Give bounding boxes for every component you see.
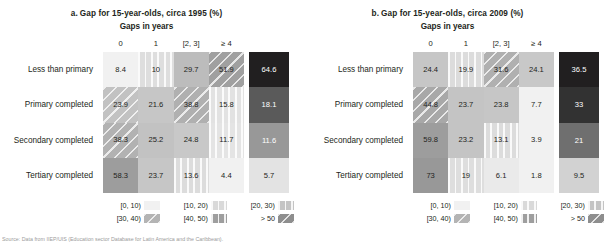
legend-swatch-40-50 — [521, 214, 537, 223]
legend-swatch-30-40 — [454, 214, 470, 223]
row-label-secondary-completed: Secondary completed — [324, 123, 403, 158]
row-label-secondary-completed: Secondary completed — [14, 123, 93, 158]
legend-swatch-10-20 — [211, 201, 227, 210]
legend-swatch-gt-50 — [278, 214, 294, 223]
legend-item-40-50: [40, 50) — [476, 213, 537, 224]
total-b-r3: 9.5 — [559, 158, 599, 193]
legend-item-gt-50: > 50 — [543, 213, 604, 224]
row-label-less-than-primary: Less than primary — [28, 52, 93, 87]
total-a-r2: 11.6 — [249, 123, 289, 158]
col-header-1: 1 — [138, 37, 173, 50]
panel-b-axis-title: Gaps in years — [301, 22, 594, 31]
legend-row-1: [0, 10) [10, 20) [20, 30) — [103, 200, 289, 211]
legend-item-gt-50: > 50 — [233, 213, 294, 224]
cell-b-r2-c3: 3.9 — [519, 123, 554, 158]
cell-b-r0-c0: 24.4 — [413, 52, 448, 87]
col-header-0: 0 — [413, 37, 448, 50]
col-header-2-3: [2, 3] — [484, 37, 519, 50]
row-label-tertiary-completed: Tertiary completed — [336, 158, 403, 193]
cell-a-r0-c1: 10 — [138, 52, 173, 87]
panel-a-letter: a. — [71, 9, 78, 18]
cell-a-r1-c3: 15.8 — [209, 87, 244, 122]
cell-b-r1-c0: 44.8 — [413, 87, 448, 122]
panel-b-row-labels: Less than primary Primary completed Seco… — [301, 52, 408, 193]
total-a-r1: 18.1 — [249, 87, 289, 122]
legend-item-10-20: [10, 20) — [476, 200, 537, 211]
legend-item-20-30: [20, 30) — [233, 200, 294, 211]
panel-a-totals-column: 64.6 18.1 11.6 5.7 — [249, 52, 289, 193]
col-header-2-3: [2, 3] — [174, 37, 209, 50]
legend-swatch-10-20 — [521, 201, 537, 210]
cell-b-r0-c2: 31.6 — [484, 52, 519, 87]
total-b-r0: 36.5 — [559, 52, 599, 87]
legend-row-2: [30, 40) [40, 50) > 50 — [103, 213, 289, 224]
cell-a-r1-c1: 21.6 — [138, 87, 173, 122]
col-header-1: 1 — [448, 37, 483, 50]
legend-item-30-40: [30, 40) — [103, 213, 160, 224]
panel-b-legend: [0, 10) [10, 20) [20, 30) [30, 40) [40, … — [413, 200, 599, 226]
cell-a-r3-c2: 13.6 — [174, 158, 209, 193]
cell-b-r1-c2: 23.8 — [484, 87, 519, 122]
cell-a-r1-c2: 38.8 — [174, 87, 209, 122]
panel-b-title: b.Gap for 15-year-olds, circa 2009 (%) — [301, 9, 594, 18]
legend-item-40-50: [40, 50) — [166, 213, 227, 224]
cell-b-r3-c1: 19 — [448, 158, 483, 193]
cell-b-r1-c3: 7.7 — [519, 87, 554, 122]
table-row: 38.3 25.2 24.8 11.7 — [103, 123, 244, 158]
table-row: 8.4 10 29.7 51.9 — [103, 52, 244, 87]
panel-a-row-labels: Less than primary Primary completed Seco… — [0, 52, 98, 193]
total-a-r3: 5.7 — [249, 158, 289, 193]
cell-b-r3-c0: 73 — [413, 158, 448, 193]
panel-a-matrix: 8.4 10 29.7 51.9 23.9 21.6 38.8 15.8 38.… — [103, 52, 244, 193]
table-row: 58.3 23.7 13.6 4.4 — [103, 158, 244, 193]
cell-a-r2-c1: 25.2 — [138, 123, 173, 158]
cell-a-r2-c3: 11.7 — [209, 123, 244, 158]
row-label-primary-completed: Primary completed — [335, 87, 403, 122]
legend-swatch-30-40 — [144, 214, 160, 223]
cell-a-r3-c3: 4.4 — [209, 158, 244, 193]
row-label-primary-completed: Primary completed — [25, 87, 93, 122]
panel-b-letter: b. — [372, 9, 379, 18]
panel-b-matrix: 24.4 19.9 31.6 24.1 44.8 23.7 23.8 7.7 5… — [413, 52, 554, 193]
total-b-r1: 33 — [559, 87, 599, 122]
legend-item-20-30: [20, 30) — [543, 200, 604, 211]
panel-a: a.Gap for 15-year-olds, circa 1995 (%) G… — [0, 0, 301, 243]
legend-item-30-40: [30, 40) — [413, 213, 470, 224]
panel-b-column-headers: 0 1 [2, 3] ≥ 4 — [413, 37, 554, 50]
legend-swatch-gt-50 — [588, 214, 604, 223]
cell-b-r1-c1: 23.7 — [448, 87, 483, 122]
panel-a-grid: 0 1 [2, 3] ≥ 4 8.4 10 29.7 51.9 23.9 21.… — [103, 52, 289, 193]
col-header-ge-4: ≥ 4 — [519, 37, 554, 50]
legend-swatch-0-10 — [144, 201, 160, 210]
legend-row-1: [0, 10) [10, 20) [20, 30) — [413, 200, 599, 211]
panel-a-axis-title: Gaps in years — [0, 22, 293, 31]
cell-a-r0-c2: 29.7 — [174, 52, 209, 87]
legend-row-2: [30, 40) [40, 50) > 50 — [413, 213, 599, 224]
panel-b-grid: 0 1 [2, 3] ≥ 4 24.4 19.9 31.6 24.1 44.8 … — [413, 52, 599, 193]
col-header-ge-4: ≥ 4 — [209, 37, 244, 50]
table-row: 59.8 23.2 13.1 3.9 — [413, 123, 554, 158]
source-note: Source: Data from IIEP/UIS (Education se… — [2, 236, 422, 243]
cell-b-r2-c1: 23.2 — [448, 123, 483, 158]
cell-a-r3-c0: 58.3 — [103, 158, 138, 193]
cell-b-r3-c3: 1.8 — [519, 158, 554, 193]
cell-a-r3-c1: 23.7 — [138, 158, 173, 193]
cell-b-r2-c2: 13.1 — [484, 123, 519, 158]
total-a-r0: 64.6 — [249, 52, 289, 87]
panel-a-column-headers: 0 1 [2, 3] ≥ 4 — [103, 37, 244, 50]
row-label-tertiary-completed: Tertiary completed — [26, 158, 93, 193]
cell-a-r0-c0: 8.4 — [103, 52, 138, 87]
legend-item-0-10: [0, 10) — [103, 200, 160, 211]
panel-a-title-text: Gap for 15-year-olds, circa 1995 (%) — [80, 9, 222, 18]
cell-a-r2-c0: 38.3 — [103, 123, 138, 158]
panel-a-legend: [0, 10) [10, 20) [20, 30) [30, 40) [40, … — [103, 200, 289, 226]
panel-b-totals-column: 36.5 33 21 9.5 — [559, 52, 599, 193]
legend-swatch-20-30 — [278, 201, 294, 210]
table-row: 44.8 23.7 23.8 7.7 — [413, 87, 554, 122]
panel-b-title-text: Gap for 15-year-olds, circa 2009 (%) — [381, 9, 523, 18]
table-row: 24.4 19.9 31.6 24.1 — [413, 52, 554, 87]
total-b-r2: 21 — [559, 123, 599, 158]
table-row: 23.9 21.6 38.8 15.8 — [103, 87, 244, 122]
cell-b-r2-c0: 59.8 — [413, 123, 448, 158]
cell-a-r1-c0: 23.9 — [103, 87, 138, 122]
